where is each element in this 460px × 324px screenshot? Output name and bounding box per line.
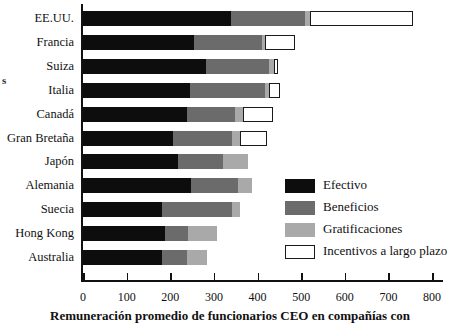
category-label-francia: Francia [37, 36, 74, 48]
bar-segment [83, 131, 173, 146]
legend-label-efectivo: Efectivo [323, 177, 367, 193]
bar-segment [83, 226, 165, 241]
legend-swatch-beneficios [285, 201, 315, 215]
x-tick-label-300: 300 [205, 290, 223, 305]
bar-segment [269, 83, 280, 98]
legend-swatch-gratificaciones [285, 223, 315, 237]
bar-segment [83, 178, 191, 193]
legend-label-gratificaciones: Gratificaciones [323, 221, 402, 237]
category-label-suiza: Suiza [46, 60, 74, 72]
x-tick-label-600: 600 [336, 290, 354, 305]
legend-label-beneficios: Beneficios [323, 199, 379, 215]
chart-caption: Remuneración promedio de funcionarios CE… [0, 308, 460, 324]
x-tick-0 [83, 273, 85, 281]
x-tick-label-700: 700 [379, 290, 397, 305]
bar-segment [173, 131, 232, 146]
bar-segment [165, 226, 188, 241]
x-tick-label-800: 800 [423, 290, 441, 305]
bar-segment [223, 154, 248, 169]
bar-segment [206, 59, 269, 74]
bar-segment [240, 131, 267, 146]
category-label-jap-n: Japón [45, 155, 74, 167]
bar-segment [232, 202, 240, 217]
bar-segment [274, 59, 278, 74]
category-label-ee-uu-: EE.UU. [34, 12, 74, 24]
x-tick-label-400: 400 [249, 290, 267, 305]
x-tick-700 [388, 273, 390, 281]
bar-segment [178, 154, 223, 169]
bar-segment [194, 35, 262, 50]
bar-segment [235, 107, 243, 122]
bar-segment [83, 59, 206, 74]
plot-area: 0100200300400500600700800 [83, 4, 460, 282]
x-tick-300 [214, 273, 216, 281]
category-label-italia: Italia [48, 84, 74, 96]
x-tick-600 [345, 273, 347, 281]
bar-segment [162, 250, 187, 265]
bar-segment [187, 107, 235, 122]
bar-segment [310, 11, 413, 26]
x-tick-label-0: 0 [80, 290, 86, 305]
category-label-canad-: Canadá [37, 108, 74, 120]
x-tick-100 [127, 273, 129, 281]
category-label-column: EE.UU.FranciaSuizaItaliaCanadáGran Breta… [0, 0, 78, 282]
bar-segment [190, 83, 265, 98]
x-tick-500 [301, 273, 303, 281]
x-tick-label-500: 500 [292, 290, 310, 305]
bar-segment [231, 11, 305, 26]
bar-segment [83, 11, 231, 26]
category-label-suecia: Suecia [41, 203, 74, 215]
bar-segment [83, 250, 162, 265]
x-tick-label-100: 100 [118, 290, 136, 305]
category-label-alemania: Alemania [25, 179, 74, 191]
bar-segment [83, 83, 190, 98]
x-tick-200 [170, 273, 172, 281]
x-tick-label-200: 200 [161, 290, 179, 305]
legend-swatch-incentivos [285, 245, 315, 259]
bar-segment [162, 202, 232, 217]
category-label-australia: Australia [28, 251, 74, 263]
bar-segment [243, 107, 273, 122]
bar-segment [191, 178, 238, 193]
bar-segment [232, 131, 240, 146]
legend-label-incentivos: Incentivos a largo plazo [323, 243, 447, 259]
bar-segment [83, 35, 194, 50]
x-tick-800 [432, 273, 434, 281]
bar-segment [265, 35, 295, 50]
x-tick-400 [258, 273, 260, 281]
bar-segment [83, 107, 187, 122]
bar-segment [83, 202, 162, 217]
bar-segment [187, 250, 207, 265]
bar-segment [238, 178, 252, 193]
category-label-hong-kong: Hong Kong [15, 227, 74, 239]
ceo-compensation-chart: s EE.UU.FranciaSuizaItaliaCanadáGran Bre… [0, 0, 460, 324]
category-label-gran-breta-a: Gran Bretaña [7, 132, 74, 144]
legend-swatch-efectivo [285, 179, 315, 193]
bar-segment [188, 226, 217, 241]
bar-segment [83, 154, 178, 169]
